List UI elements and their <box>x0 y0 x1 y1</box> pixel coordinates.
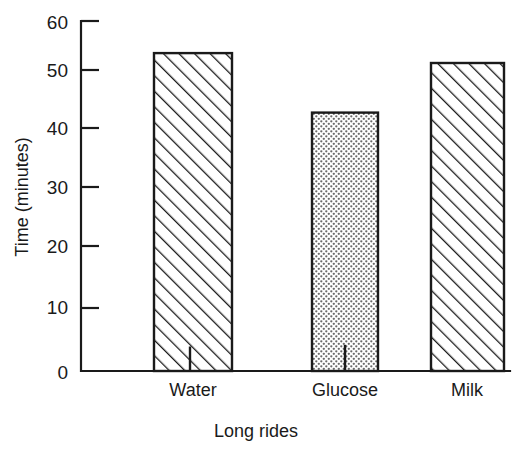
x-axis-title: Long rides <box>214 421 298 441</box>
y-tick-label-50: 50 <box>47 60 68 81</box>
bar-glucose <box>312 113 378 371</box>
y-tick-label-0: 0 <box>57 362 68 383</box>
bar-milk <box>431 63 504 371</box>
chart-canvas: Time (minutes) 60 50 40 30 20 10 0 Water… <box>0 0 512 451</box>
bar-chart: Time (minutes) 60 50 40 30 20 10 0 Water… <box>0 0 512 451</box>
x-category-label-glucose: Glucose <box>312 380 378 400</box>
bar-water <box>154 53 232 371</box>
y-tick-label-30: 30 <box>47 177 68 198</box>
y-axis-title: Time (minutes) <box>12 137 32 256</box>
x-category-label-water: Water <box>169 380 216 400</box>
y-tick-label-40: 40 <box>47 118 68 139</box>
y-tick-label-20: 20 <box>47 236 68 257</box>
x-category-label-milk: Milk <box>451 380 484 400</box>
y-tick-label-60: 60 <box>47 12 68 33</box>
y-tick-label-10: 10 <box>47 297 68 318</box>
